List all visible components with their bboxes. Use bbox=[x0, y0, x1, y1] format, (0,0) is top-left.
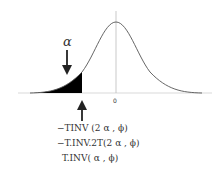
formula-tinv: −TINV (2 α , ϕ) bbox=[57, 123, 128, 133]
alpha-label: α bbox=[63, 34, 72, 49]
critical-arrow-icon bbox=[77, 100, 87, 110]
formula-t-inv: T.INV( α , ϕ) bbox=[62, 153, 118, 163]
zero-label: 0 bbox=[113, 97, 117, 104]
alpha-arrow-icon bbox=[62, 65, 72, 75]
formula-tinv2t: −T.INV.2T(2 α , ϕ) bbox=[57, 138, 139, 148]
distribution-plot bbox=[0, 0, 219, 175]
diagram-root: α 0 −TINV (2 α , ϕ) −T.INV.2T(2 α , ϕ) T… bbox=[0, 0, 219, 175]
